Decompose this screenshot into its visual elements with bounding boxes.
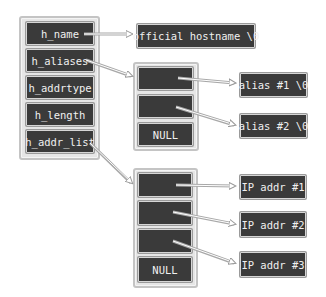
arrow-alias1	[178, 78, 235, 83]
arrow-alias2	[176, 107, 235, 125]
arrow-ip3	[173, 241, 235, 263]
arrow-ip2	[173, 212, 235, 224]
pointer-arrows	[0, 0, 326, 297]
arrow-aliases	[86, 60, 132, 76]
arrow-addrlist	[90, 143, 132, 183]
